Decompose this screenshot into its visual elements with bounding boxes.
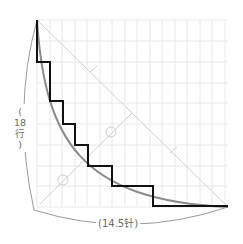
cross-diagonal: [40, 113, 132, 204]
height-label-unit: 行: [14, 128, 26, 139]
height-label-open: (: [14, 106, 26, 117]
tick-mark: [90, 66, 97, 72]
tick-mark: [170, 147, 177, 153]
height-label: ( 18 行 ): [14, 104, 26, 152]
height-label-number: 18: [14, 117, 26, 128]
width-label: (14.5针): [96, 219, 140, 229]
circle-marker: [106, 127, 116, 137]
circle-marker: [58, 175, 68, 185]
stepped-decrease-diagram: [0, 0, 243, 244]
guide-lines: [37, 20, 228, 207]
height-label-close: ): [14, 139, 26, 150]
dimension-arcs: [24, 20, 228, 224]
